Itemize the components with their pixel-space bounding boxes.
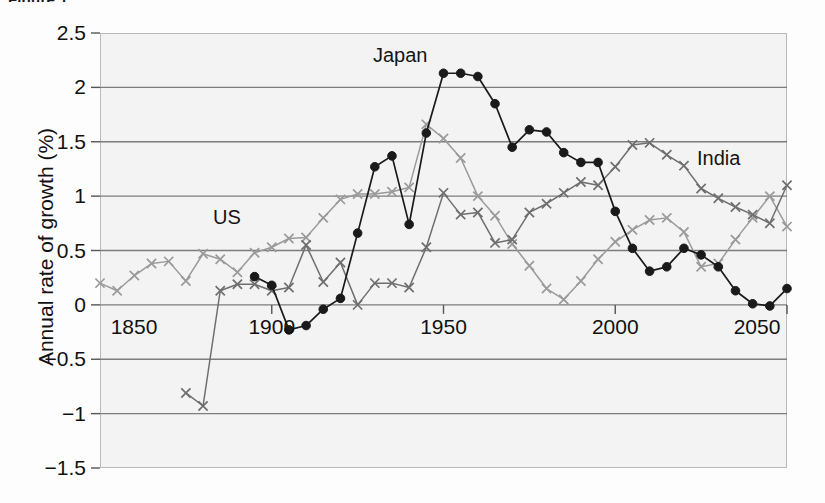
data-point-japan <box>594 158 603 167</box>
data-point-japan <box>783 284 792 293</box>
data-point-india <box>319 277 328 286</box>
y-tick-label: −1 <box>0 402 86 426</box>
series-label-india: India <box>697 147 740 170</box>
data-point-us <box>559 295 568 304</box>
data-point-japan <box>474 72 483 81</box>
data-point-india <box>765 219 774 228</box>
data-point-japan <box>456 69 465 78</box>
series-japan <box>250 69 791 334</box>
data-point-us <box>611 237 620 246</box>
data-point-india <box>611 162 620 171</box>
y-tick-label: 2 <box>0 75 86 99</box>
data-point-japan <box>250 272 259 281</box>
y-tick-label: 2.5 <box>0 21 86 45</box>
data-point-india <box>525 208 534 217</box>
data-point-japan <box>422 129 431 138</box>
data-point-india <box>782 181 791 190</box>
series-label-us: US <box>213 206 241 229</box>
data-point-us <box>628 225 637 234</box>
data-point-india <box>302 240 311 249</box>
x-tick-label: 1900 <box>248 315 295 339</box>
series-india <box>181 138 791 410</box>
data-point-us <box>181 276 190 285</box>
x-tick-label: 1950 <box>420 315 467 339</box>
data-point-us <box>456 153 465 162</box>
data-point-japan <box>353 229 362 238</box>
y-tick-label: −0.5 <box>0 347 86 371</box>
data-point-japan <box>628 244 637 253</box>
data-point-japan <box>491 99 500 108</box>
data-point-us <box>593 255 602 264</box>
x-tick-label: 2000 <box>592 315 639 339</box>
data-point-india <box>336 258 345 267</box>
series-line-india <box>186 143 787 406</box>
data-point-india <box>181 388 190 397</box>
data-point-india <box>714 194 723 203</box>
y-tick-label: 0.5 <box>0 239 86 263</box>
chart-svg <box>0 0 825 503</box>
y-tick-label: 1 <box>0 184 86 208</box>
data-point-japan <box>714 263 723 272</box>
data-point-us <box>319 213 328 222</box>
data-point-us <box>113 286 122 295</box>
data-point-india <box>405 283 414 292</box>
data-point-japan <box>302 321 311 330</box>
data-point-us <box>542 284 551 293</box>
data-point-japan <box>525 125 534 134</box>
data-point-india <box>679 161 688 170</box>
data-point-japan <box>542 128 551 137</box>
y-tick-label: −1.5 <box>0 456 86 480</box>
series-label-japan: Japan <box>373 44 428 67</box>
x-tick-label: 2050 <box>734 315 781 339</box>
data-point-japan <box>336 294 345 303</box>
data-point-us <box>233 268 242 277</box>
data-point-japan <box>439 69 448 78</box>
data-point-japan <box>371 162 380 171</box>
series-line-japan <box>255 73 787 330</box>
data-point-japan <box>766 302 775 311</box>
data-point-japan <box>388 152 397 161</box>
y-tick-label: 1.5 <box>0 130 86 154</box>
data-point-india <box>662 150 671 159</box>
data-point-us <box>679 227 688 236</box>
data-point-japan <box>267 281 276 290</box>
data-point-us <box>525 261 534 270</box>
x-tick-label: 1850 <box>111 315 158 339</box>
data-point-japan <box>662 263 671 272</box>
data-point-india <box>542 199 551 208</box>
data-point-india <box>731 202 740 211</box>
data-point-japan <box>645 267 654 276</box>
data-point-japan <box>508 143 517 152</box>
data-point-japan <box>611 207 620 216</box>
data-point-us <box>490 211 499 220</box>
data-point-us <box>405 183 414 192</box>
data-point-us <box>216 255 225 264</box>
figure-container: Figure 1 Annual rate of growth (%) 2.521… <box>0 0 825 503</box>
data-point-us <box>576 276 585 285</box>
data-point-japan <box>680 244 689 253</box>
data-point-us <box>95 279 104 288</box>
series-line-us <box>100 124 787 299</box>
data-point-japan <box>559 148 568 157</box>
data-point-japan <box>697 251 706 260</box>
series-us <box>95 120 791 304</box>
data-point-us <box>731 235 740 244</box>
y-tick-label: 0 <box>0 293 86 317</box>
data-point-japan <box>748 299 757 308</box>
data-point-us <box>130 271 139 280</box>
data-point-japan <box>577 158 586 167</box>
data-point-india <box>697 184 706 193</box>
data-point-japan <box>731 286 740 295</box>
data-point-japan <box>319 305 328 314</box>
data-point-us <box>250 248 259 257</box>
data-point-us <box>782 222 791 231</box>
data-point-japan <box>405 220 414 229</box>
